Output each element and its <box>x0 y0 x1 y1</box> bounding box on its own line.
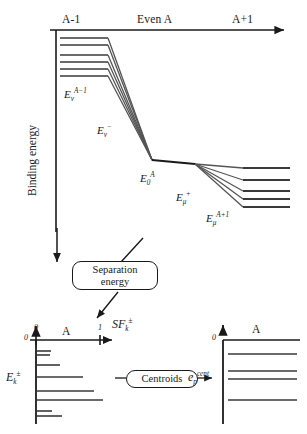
separation-energy-line1: Separation <box>78 264 152 276</box>
bottom-left-origin-label: 0 <box>24 334 28 342</box>
a-plus-1-levels <box>243 168 290 207</box>
separation-arrow-out <box>97 292 118 318</box>
bottom-left-axis-mid-label: A <box>62 326 71 338</box>
label-sub: 0 <box>147 179 151 187</box>
label-sub: ν <box>71 95 74 103</box>
bottom-right-axis-mid-label: A <box>252 324 261 336</box>
label-sup: ± <box>17 370 21 378</box>
label-sub: p <box>193 378 197 386</box>
bottom-left-one-tick: 1 <box>98 324 102 332</box>
diagram-vector-layer <box>0 0 307 434</box>
bottom-left-zero-tick: 0 <box>34 324 38 332</box>
transition-lines-plus <box>195 164 243 207</box>
label-base: E <box>206 212 213 224</box>
label-sub: μ <box>183 198 187 206</box>
label-base: E <box>97 124 104 136</box>
label-sup: + <box>186 190 190 198</box>
label-a-plus-1-levels: EμA+1 <box>206 212 229 227</box>
figure-canvas: A-1 Even A A+1 Binding energy EνA−1 Eν− … <box>0 0 307 434</box>
a-minus-1-levels <box>60 38 108 76</box>
label-sub: ν <box>104 131 107 139</box>
column-header-a-plus-1: A+1 <box>232 14 253 26</box>
label-base: SF <box>112 317 125 331</box>
label-transition-plus: Eμ+ <box>176 191 190 206</box>
label-sup: A−1 <box>74 87 87 95</box>
label-sup: ± <box>129 317 133 325</box>
label-sup: A <box>150 171 154 179</box>
label-ground-state: E0A <box>140 172 155 187</box>
label-sub: k <box>13 378 16 386</box>
ground-state-level <box>152 160 195 164</box>
bottom-right-energy-label: epcent <box>188 371 209 387</box>
bottom-left-energy-label: Ek± <box>6 371 21 387</box>
separation-energy-line2: energy <box>78 276 152 288</box>
label-transition-minus: Eν− <box>97 124 111 139</box>
bottom-right-origin-label: 0 <box>212 334 216 342</box>
label-base: E <box>64 88 71 100</box>
top-panel-axes <box>50 30 284 232</box>
column-header-a-minus-1: A-1 <box>62 14 81 26</box>
label-sup: − <box>107 123 111 131</box>
bottom-left-axis-label-sf: SFk± <box>112 318 133 334</box>
separation-arrow-in <box>121 238 143 262</box>
label-base: E <box>176 191 183 203</box>
bottom-left-strength-bars <box>37 351 103 416</box>
bottom-right-centroid-levels <box>228 354 297 400</box>
label-sup: cent <box>197 370 209 378</box>
label-base: E <box>140 172 147 184</box>
bottom-right-axes <box>223 325 300 424</box>
transition-lines-minus <box>108 38 152 160</box>
y-axis-label-binding-energy: Binding energy <box>26 125 38 196</box>
label-sub: k <box>125 325 128 333</box>
label-sub: μ <box>213 219 217 227</box>
separation-energy-box: Separation energy <box>72 261 158 290</box>
centroids-label: Centroids <box>132 373 192 385</box>
bottom-left-axes <box>30 326 112 424</box>
label-a-minus-1-levels: EνA−1 <box>64 88 87 103</box>
column-header-even-a: Even A <box>137 14 172 26</box>
label-sup: A+1 <box>216 211 229 219</box>
